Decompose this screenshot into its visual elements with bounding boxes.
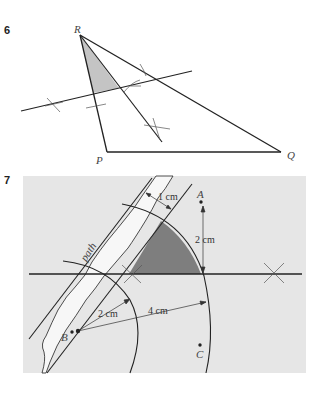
vertex-label-p: P [95,154,103,166]
point-b [70,330,73,333]
vertex-label-r: R [73,23,81,35]
shaded-region [80,35,119,93]
vertex-label-q: Q [287,149,295,161]
label-1cm: 1 cm [158,191,178,202]
label-b: B [61,331,68,343]
figures-canvas: R P Q [0,0,321,394]
point-c [198,343,201,346]
side-rq [80,35,281,152]
label-2cm-vertical: 2 cm [195,234,215,245]
label-a: A [196,188,204,200]
figure-7-loci: path A B C 1 cm 2 cm 2 cm 4 cm [23,176,306,373]
point-a [199,200,202,203]
point-b-centre [76,329,80,333]
figure-6-triangle: R P Q [21,23,295,166]
label-2cm-radius: 2 cm [98,308,118,319]
label-c: C [196,348,204,360]
label-4cm-radius: 4 cm [148,305,168,316]
